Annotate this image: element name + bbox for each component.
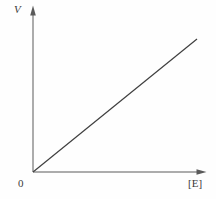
data-line xyxy=(33,39,197,172)
origin-label: 0 xyxy=(18,177,24,189)
x-axis-label: [E] xyxy=(188,177,202,189)
y-axis-label: V xyxy=(14,3,22,15)
y-axis-up-arrowhead-icon xyxy=(30,6,36,16)
chart-figure: V 0 [E] xyxy=(0,0,216,199)
x-axis-right-arrowhead-icon xyxy=(197,169,207,175)
chart-canvas: V 0 [E] xyxy=(0,0,216,199)
